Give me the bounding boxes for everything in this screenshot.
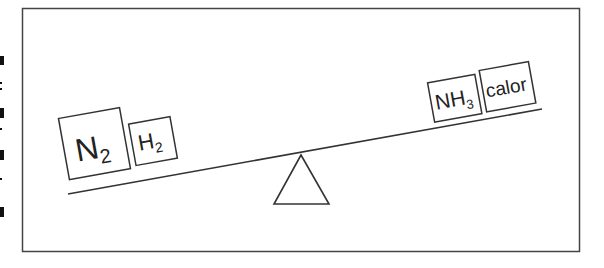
box-nh3: NH3 <box>428 74 482 122</box>
left-pan: N2 H2 <box>58 99 177 179</box>
edge-marks <box>0 56 4 217</box>
box-h2: H2 <box>129 117 178 166</box>
box-calor: calor <box>479 62 536 112</box>
box-n2: N2 <box>58 108 130 180</box>
fulcrum-triangle <box>274 155 329 204</box>
balance-diagram: N2 H2 NH3 calor <box>0 0 604 268</box>
